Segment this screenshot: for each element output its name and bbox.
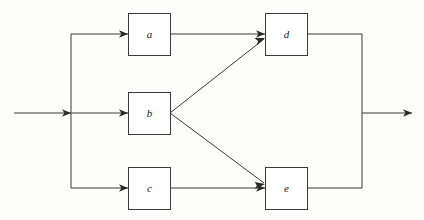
blocks-layer: a b c d e bbox=[129, 14, 308, 210]
block-a[interactable]: a bbox=[129, 14, 171, 56]
block-c-label: c bbox=[147, 182, 152, 194]
block-e-label: e bbox=[284, 182, 289, 194]
block-b[interactable]: b bbox=[129, 93, 171, 135]
block-e[interactable]: e bbox=[266, 168, 308, 210]
block-d[interactable]: d bbox=[266, 14, 308, 56]
block-a-label: a bbox=[147, 28, 153, 40]
edge-b-to-d bbox=[170, 39, 264, 113]
block-diagram-canvas: a b c d e bbox=[0, 0, 424, 220]
edges-layer bbox=[14, 30, 412, 192]
arrowhead-b-to-d bbox=[254, 38, 265, 46]
block-b-label: b bbox=[147, 107, 153, 119]
block-d-label: d bbox=[284, 28, 290, 40]
block-c[interactable]: c bbox=[129, 168, 171, 210]
diagram-svg: a b c d e bbox=[0, 0, 424, 220]
edge-b-to-e bbox=[170, 113, 264, 183]
